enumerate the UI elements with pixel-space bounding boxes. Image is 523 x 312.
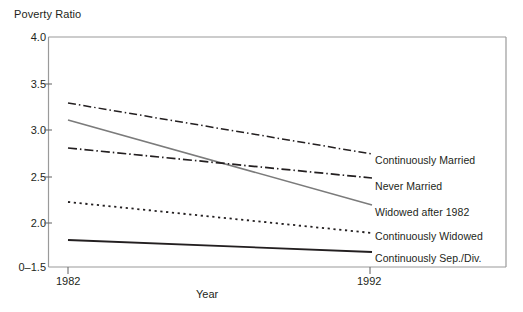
series-line-never-married (68, 148, 372, 178)
series-line-continuously-sep-div (68, 240, 372, 252)
x-axis-ticks (68, 267, 370, 274)
series-line-continuously-widowed (68, 202, 372, 233)
legend-label-widowed-after-1982: Widowed after 1982 (375, 206, 469, 218)
series-line-continuously-married (68, 103, 372, 154)
legend-label-never-married: Never Married (375, 180, 442, 192)
legend-label-continuously-married: Continuously Married (375, 154, 475, 166)
legend-label-continuously-sep-div: Continuously Sep./Div. (375, 252, 482, 264)
poverty-ratio-line-chart: Poverty Ratio 4.0 3.5 3.0 2.5 2.0 0–1.5 … (0, 0, 523, 312)
series-lines (68, 103, 372, 252)
legend-label-continuously-widowed: Continuously Widowed (375, 230, 483, 242)
